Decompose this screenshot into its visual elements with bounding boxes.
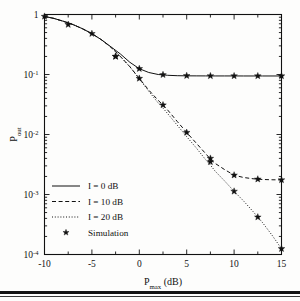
- simulation-marker: [254, 72, 261, 78]
- y-tick-label: 10-3: [24, 188, 39, 200]
- page-bottom-rule: [0, 291, 300, 294]
- y-tick-label: 10-2: [24, 128, 39, 140]
- x-tick-label: -5: [88, 259, 96, 269]
- legend-marker-simulation: [63, 229, 69, 235]
- figure-container: -10-5051015110-110-210-310-4Pmax (dB)Pou…: [0, 0, 300, 301]
- simulation-marker: [160, 71, 167, 77]
- simulation-marker: [254, 214, 261, 220]
- simulation-marker: [136, 65, 143, 71]
- x-tick-label: 5: [184, 259, 189, 269]
- simulation-marker: [254, 176, 261, 182]
- simulation-marker: [231, 172, 238, 178]
- legend-label-3: Simulation: [88, 228, 129, 238]
- y-tick-label: 10-1: [24, 68, 39, 80]
- legend-label-2: I = 20 dB: [88, 212, 123, 222]
- y-axis-title: Pout: [8, 127, 22, 141]
- simulation-marker: [112, 53, 119, 59]
- x-tick-label: 15: [277, 259, 287, 269]
- series-line-2: [45, 16, 282, 248]
- plot-frame: [45, 15, 282, 255]
- x-tick-label: 0: [137, 259, 142, 269]
- y-tick-label: 10-4: [24, 248, 40, 260]
- page-bottom-rule-thin: [0, 296, 300, 297]
- simulation-marker: [207, 158, 214, 164]
- legend-label-1: I = 10 dB: [88, 197, 123, 207]
- simulation-marker: [231, 72, 238, 78]
- simulation-marker: [183, 72, 190, 78]
- outage-probability-chart: -10-5051015110-110-210-310-4Pmax (dB)Pou…: [0, 0, 300, 301]
- series-line-1: [45, 16, 282, 180]
- series-line-0: [45, 16, 282, 76]
- x-tick-label: 10: [229, 259, 239, 269]
- x-tick-label: -10: [38, 259, 51, 269]
- x-axis-title: Pmax (dB): [144, 276, 182, 290]
- y-tick-label: 1: [34, 10, 39, 20]
- legend-label-0: I = 0 dB: [88, 181, 118, 191]
- simulation-marker: [207, 72, 214, 78]
